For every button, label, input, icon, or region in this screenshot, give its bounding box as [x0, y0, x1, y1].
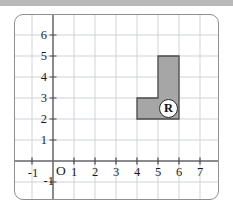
x-axis-label-6: 6	[169, 166, 189, 179]
x-axis-label-5: 5	[148, 166, 168, 179]
x-axis-label-3: 3	[106, 166, 126, 179]
y-axis-label-3: 3	[27, 92, 47, 105]
y-axis-label-1: 1	[27, 134, 47, 147]
grid-frame: 6543211234567O-1-1 R	[14, 14, 219, 200]
y-axis-label-6: 6	[27, 29, 47, 42]
y-axis-label-2: 2	[27, 113, 47, 126]
x-axis-label-1: 1	[64, 166, 84, 179]
y-axis-label-5: 5	[27, 50, 47, 63]
shape-label-r: R	[159, 99, 178, 118]
x-axis-label-4: 4	[127, 166, 147, 179]
x-axis-label-7: 7	[190, 166, 210, 179]
y-axis-label-4: 4	[27, 71, 47, 84]
x-axis-label-2: 2	[85, 166, 105, 179]
y-axis-label-negative-1: -1	[34, 175, 54, 188]
coordinate-grid-figure: 6543211234567O-1-1 R	[0, 6, 233, 209]
origin-label: O	[56, 164, 66, 178]
